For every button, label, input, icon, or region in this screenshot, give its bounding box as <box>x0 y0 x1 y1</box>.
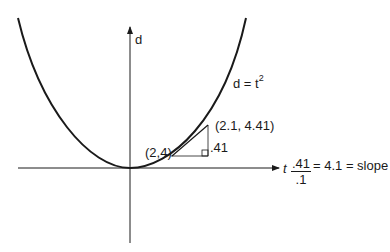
right-angle-marker <box>202 150 208 156</box>
point-label-2-4: (2,4) <box>145 146 172 159</box>
rise-label: .41 <box>210 141 228 154</box>
point-label-2.1-4.41: (2.1, 4.41) <box>215 119 274 132</box>
slope-denominator: .1 <box>291 172 311 186</box>
curve-label: d = t2 <box>233 77 264 90</box>
secant-line <box>172 125 208 156</box>
t-axis-label: t <box>283 162 287 175</box>
curve-label-base: d = t <box>233 76 259 91</box>
slope-numerator: .41 <box>291 157 311 172</box>
slope-fraction: .41 .1 <box>291 157 311 186</box>
diagram-canvas <box>0 0 390 252</box>
slope-result: = 4.1 = slope <box>313 159 388 172</box>
curve-label-exponent: 2 <box>259 73 264 83</box>
d-axis-label: d <box>135 33 142 46</box>
